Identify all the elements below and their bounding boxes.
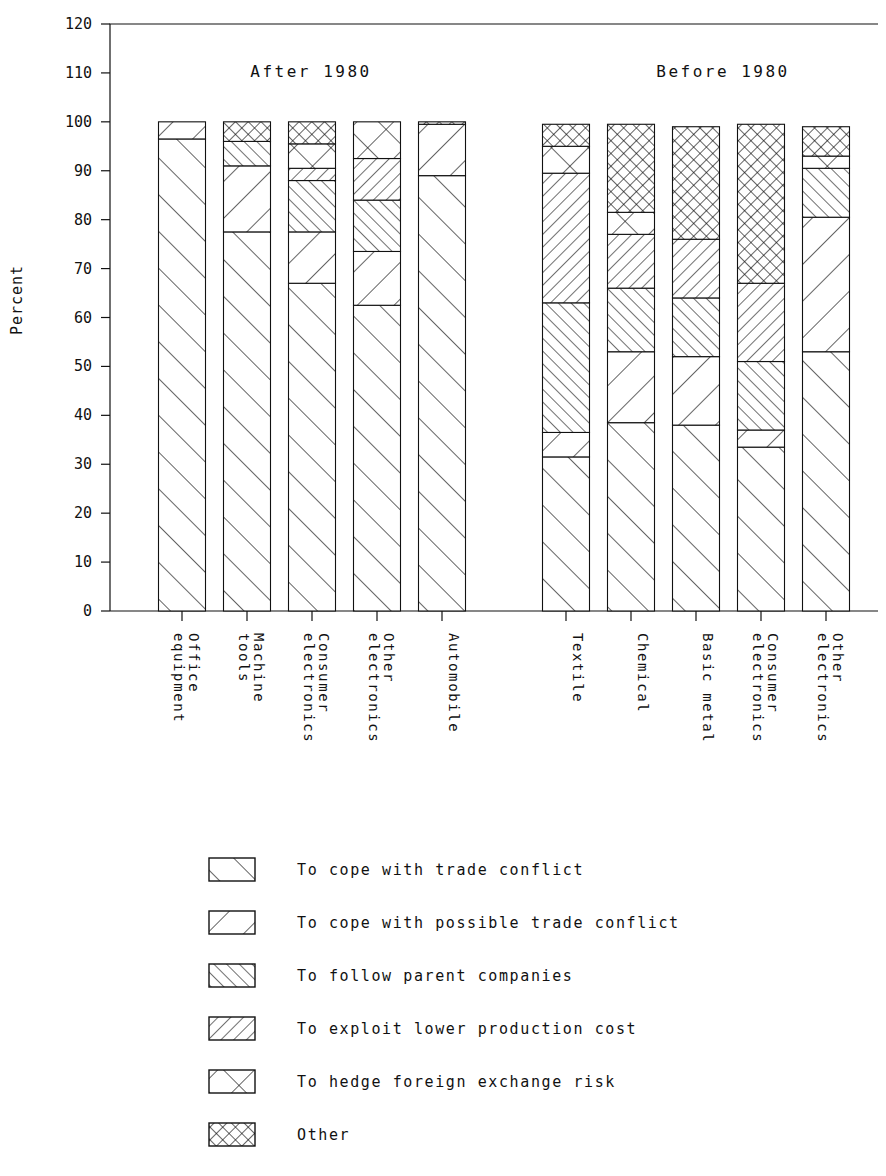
legend-label: To exploit lower production cost bbox=[297, 1020, 637, 1038]
bar-segment bbox=[543, 432, 590, 456]
legend-swatch bbox=[209, 858, 255, 881]
category-label: Consumer bbox=[765, 633, 781, 713]
bar-segment bbox=[354, 251, 401, 305]
legend-item: To hedge foreign exchange risk bbox=[209, 1070, 616, 1093]
legend-label: Other bbox=[297, 1126, 350, 1144]
category-label: electronics bbox=[301, 633, 317, 743]
bar-segment bbox=[419, 124, 466, 175]
legend-item: To exploit lower production cost bbox=[209, 1017, 637, 1040]
bar-segment bbox=[354, 305, 401, 611]
category-label: Machine bbox=[251, 633, 267, 703]
bar-segment bbox=[543, 146, 590, 173]
category-label: electronics bbox=[750, 633, 766, 743]
bar-segment bbox=[803, 352, 850, 611]
bar-segment bbox=[289, 122, 336, 144]
category-label: tools bbox=[236, 633, 252, 683]
bar-segment bbox=[289, 232, 336, 283]
bar-segment bbox=[224, 166, 271, 232]
bar-segment bbox=[608, 288, 655, 352]
bar-segment bbox=[673, 239, 720, 298]
y-tick-label: 90 bbox=[74, 162, 92, 180]
chart-canvas: 0102030405060708090100110120 Officeequip… bbox=[0, 0, 886, 1176]
bar-segment bbox=[419, 176, 466, 611]
bar-segment bbox=[543, 303, 590, 433]
category-label: Textile bbox=[570, 633, 586, 703]
bar-segment bbox=[159, 122, 206, 139]
y-tick-label: 110 bbox=[65, 64, 92, 82]
y-tick-label: 30 bbox=[74, 455, 92, 473]
legend-swatch bbox=[209, 1123, 255, 1146]
y-tick-label: 60 bbox=[74, 309, 92, 327]
bar-segment bbox=[543, 173, 590, 303]
bar-segment bbox=[608, 234, 655, 288]
group-titles-layer: After 1980Before 1980 bbox=[250, 62, 789, 81]
legend-label: To cope with possible trade conflict bbox=[297, 914, 680, 932]
legend-item: To cope with trade conflict bbox=[209, 858, 584, 881]
y-tick-label: 50 bbox=[74, 357, 92, 375]
bar-segment bbox=[289, 144, 336, 168]
legend-swatch bbox=[209, 964, 255, 987]
y-axis-title: Percent bbox=[8, 265, 26, 335]
bar-segment bbox=[608, 352, 655, 423]
bar-segment bbox=[224, 141, 271, 165]
category-label: Consumer bbox=[316, 633, 332, 713]
bar-segment bbox=[289, 181, 336, 232]
bar-segment bbox=[673, 127, 720, 240]
legend-label: To hedge foreign exchange risk bbox=[297, 1073, 616, 1091]
category-label: electronics bbox=[366, 633, 382, 743]
bar-segment bbox=[673, 357, 720, 425]
bar-segment bbox=[419, 122, 466, 124]
bar-segment bbox=[738, 283, 785, 361]
bar-segment bbox=[543, 457, 590, 611]
bar-segment bbox=[738, 124, 785, 283]
legend-item: To follow parent companies bbox=[209, 964, 573, 987]
bar-segment bbox=[673, 425, 720, 611]
bar-segment bbox=[608, 212, 655, 234]
y-tick-label: 80 bbox=[74, 211, 92, 229]
y-tick-label: 100 bbox=[65, 113, 92, 131]
category-labels-layer: OfficeequipmentMachinetoolsConsumerelect… bbox=[171, 633, 846, 743]
bar-segment bbox=[354, 200, 401, 251]
y-tick-label: 20 bbox=[74, 504, 92, 522]
legend-label: To cope with trade conflict bbox=[297, 861, 584, 879]
bars-layer bbox=[159, 122, 850, 611]
category-label: equipment bbox=[171, 633, 187, 723]
bar-segment bbox=[608, 423, 655, 611]
category-label: electronics bbox=[815, 633, 831, 743]
legend-item: To cope with possible trade conflict bbox=[209, 911, 680, 934]
bar-segment bbox=[289, 283, 336, 611]
y-tick-label: 0 bbox=[83, 602, 92, 620]
bar-segment bbox=[738, 430, 785, 447]
category-label: Basic metal bbox=[700, 633, 716, 743]
category-label: Chemical bbox=[635, 633, 651, 713]
bar-segment bbox=[354, 159, 401, 201]
bar-segment bbox=[159, 139, 206, 611]
stacked-bar-chart: 0102030405060708090100110120 Officeequip… bbox=[0, 0, 886, 1176]
bar-segment bbox=[738, 362, 785, 430]
bar-segment bbox=[608, 124, 655, 212]
x-axis bbox=[182, 611, 826, 621]
legend-swatch bbox=[209, 911, 255, 934]
bar-segment bbox=[803, 217, 850, 352]
legend-label: To follow parent companies bbox=[297, 967, 573, 985]
bar-segment bbox=[224, 232, 271, 611]
bar-segment bbox=[224, 122, 271, 142]
bar-segment bbox=[673, 298, 720, 357]
legend-swatch bbox=[209, 1070, 255, 1093]
group-title: Before 1980 bbox=[656, 62, 789, 81]
category-label: Automobile bbox=[446, 633, 462, 733]
group-title: After 1980 bbox=[250, 62, 371, 81]
legend-swatch bbox=[209, 1017, 255, 1040]
bar-segment bbox=[803, 127, 850, 156]
bar-segment bbox=[354, 122, 401, 159]
y-tick-label: 10 bbox=[74, 553, 92, 571]
bar-segment bbox=[738, 447, 785, 611]
legend: To cope with trade conflictTo cope with … bbox=[209, 858, 680, 1146]
y-tick-label: 70 bbox=[74, 260, 92, 278]
category-label: Other bbox=[381, 633, 397, 683]
bar-segment bbox=[803, 156, 850, 168]
y-axis: 0102030405060708090100110120 bbox=[65, 15, 110, 620]
y-tick-label: 120 bbox=[65, 15, 92, 33]
category-label: Other bbox=[830, 633, 846, 683]
legend-item: Other bbox=[209, 1123, 350, 1146]
